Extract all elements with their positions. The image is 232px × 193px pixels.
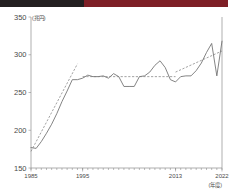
x-tick-label: 1995	[76, 173, 90, 179]
chart-canvas: (兆円) (年度) 150200250300350 19851995201320…	[0, 7, 232, 193]
banner-red-block	[84, 0, 228, 7]
banner-white-tail	[228, 0, 232, 7]
trend-line-path	[176, 51, 222, 72]
x-tick-label: 2022	[215, 173, 229, 179]
y-axis-ticks: 150200250300350	[14, 13, 31, 173]
x-axis-ticks: 1985199520132022	[24, 168, 229, 179]
series-paths	[31, 41, 222, 151]
x-axis-unit-label: (年度)	[208, 181, 222, 189]
line-chart: (兆円) (年度) 150200250300350 19851995201320…	[0, 7, 232, 193]
y-tick-label: 200	[14, 126, 27, 135]
y-tick-label: 300	[14, 50, 27, 59]
plot-frame	[31, 17, 222, 168]
banner-dark-block	[0, 0, 84, 7]
top-banner	[0, 0, 232, 7]
x-tick-label: 2013	[169, 173, 183, 179]
y-tick-label: 250	[14, 88, 27, 97]
data-series-path	[31, 41, 222, 148]
y-tick-label: 350	[14, 13, 27, 22]
x-tick-label: 1985	[24, 173, 38, 179]
trend-line-path	[31, 64, 77, 152]
axis-frame-path	[31, 17, 222, 168]
y-axis-unit-label: (兆円)	[32, 14, 46, 22]
y-tick-label: 150	[14, 164, 27, 173]
